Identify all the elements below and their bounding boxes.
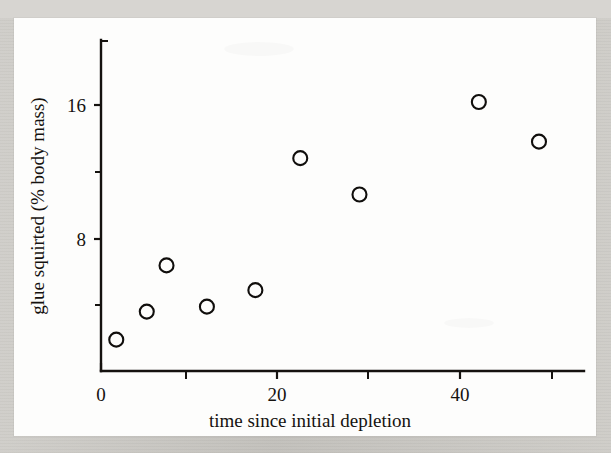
data-point: [532, 135, 546, 149]
x-tick-label-40: 40: [451, 384, 470, 405]
data-points-layer: [109, 95, 546, 347]
x-tick-label-20: 20: [268, 384, 287, 405]
data-point: [200, 300, 214, 314]
x-axis-title: time since initial depletion: [209, 410, 412, 431]
data-point: [293, 151, 307, 165]
page-top-strip: [0, 0, 611, 18]
data-point: [140, 305, 154, 319]
scatter-plot: 16 8 0 20 40 time since initial depletio…: [14, 18, 596, 436]
data-point: [160, 258, 174, 272]
data-point: [352, 187, 366, 201]
y-tick-label-8: 8: [77, 229, 87, 250]
data-point: [472, 95, 486, 109]
y-axis-title: glue squirted (% body mass): [27, 97, 49, 314]
y-tick-label-16: 16: [67, 95, 86, 116]
axes: [101, 40, 584, 371]
data-point: [109, 333, 123, 347]
data-point: [248, 283, 262, 297]
x-tick-label-0: 0: [96, 384, 106, 405]
figure-panel: 16 8 0 20 40 time since initial depletio…: [14, 18, 596, 436]
